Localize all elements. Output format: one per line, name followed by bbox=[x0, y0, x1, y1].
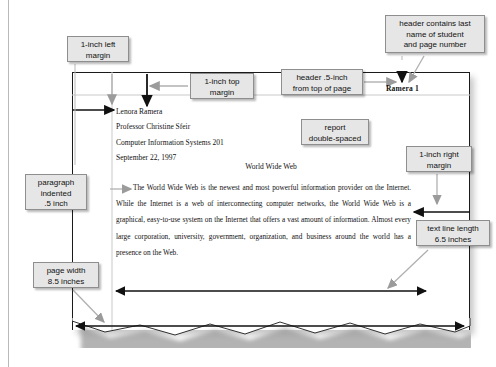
callout-header-content-line2: name of student bbox=[390, 30, 480, 41]
callout-right-margin-line2: margin bbox=[411, 161, 467, 172]
callout-header-position-line2: from top of page bbox=[286, 84, 358, 95]
callout-top-margin-line2: margin bbox=[195, 88, 249, 99]
callout-page-width-line2: 8.5 inches bbox=[38, 277, 94, 288]
name-line-student: Lenora Ramera bbox=[116, 104, 224, 119]
figure-left-rule bbox=[8, 0, 9, 367]
callout-line-length-line2: 6.5 inches bbox=[421, 235, 485, 246]
page-torn-edge bbox=[72, 318, 471, 348]
callout-top-margin-line1: 1-inch top bbox=[195, 77, 249, 88]
callout-header-content-line1: header contains last bbox=[390, 19, 480, 30]
callout-paragraph-indent-line1: paragraph bbox=[30, 178, 82, 189]
callout-top-margin: 1-inch top margin bbox=[190, 73, 254, 99]
callout-line-length: text line length 6.5 inches bbox=[416, 220, 490, 246]
callout-line-length-line1: text line length bbox=[421, 224, 485, 235]
callout-double-spaced-line1: report bbox=[306, 123, 364, 134]
callout-left-margin-line1: 1-inch left bbox=[72, 40, 124, 51]
callout-header-content: header contains last name of student and… bbox=[385, 15, 485, 53]
callout-paragraph-indent-line3: .5 inch bbox=[30, 199, 82, 210]
callout-right-margin-line1: 1-inch right bbox=[411, 150, 467, 161]
callout-page-width: page width 8.5 inches bbox=[33, 262, 99, 288]
name-line-professor: Professor Christine Sfeir bbox=[116, 119, 224, 134]
document-running-header: Ramera 1 bbox=[386, 84, 419, 93]
callout-left-margin-line2: margin bbox=[72, 51, 124, 62]
name-line-course: Computer Information Systems 201 bbox=[116, 135, 224, 150]
callout-paragraph-indent: paragraph indented .5 inch bbox=[25, 174, 87, 210]
document-body-paragraph: The World Wide Web is the newest and mos… bbox=[116, 180, 411, 261]
callout-left-margin: 1-inch left margin bbox=[67, 36, 129, 62]
callout-double-spaced: report double-spaced bbox=[301, 119, 369, 145]
callout-double-spaced-line2: double-spaced bbox=[306, 134, 364, 145]
callout-right-margin: 1-inch right margin bbox=[406, 146, 472, 172]
diagram-canvas: Ramera 1 Lenora Ramera Professor Christi… bbox=[0, 0, 496, 367]
callout-header-content-line3: and page number bbox=[390, 40, 480, 51]
callout-page-width-line1: page width bbox=[38, 266, 94, 277]
document-name-block: Lenora Ramera Professor Christine Sfeir … bbox=[116, 104, 224, 166]
callout-header-position-line1: header .5-inch bbox=[286, 73, 358, 84]
callout-paragraph-indent-line2: indented bbox=[30, 189, 82, 200]
callout-header-position: header .5-inch from top of page bbox=[281, 69, 363, 95]
